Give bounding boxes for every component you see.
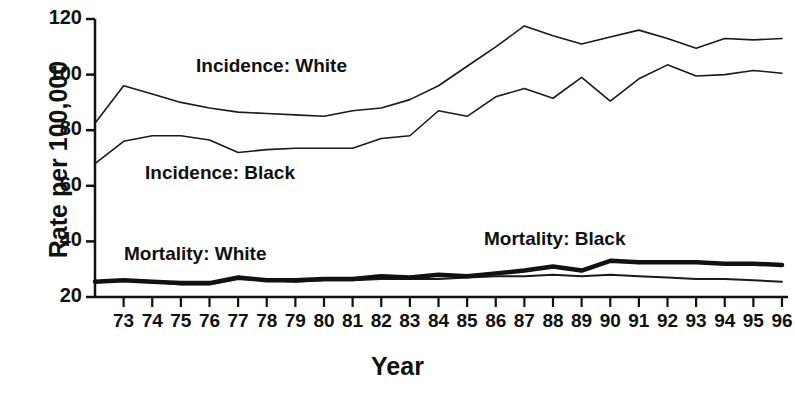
- chart-figure: Rate per 100,000 Year 20406080100120 737…: [0, 0, 795, 401]
- plot-canvas: [0, 0, 795, 401]
- data-lines: [95, 26, 782, 285]
- series-line-incidence-black: [95, 65, 782, 164]
- series-line-incidence-white: [95, 26, 782, 123]
